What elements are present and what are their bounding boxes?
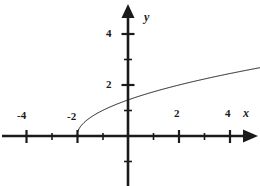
x-tick-label-minus-2: -2 bbox=[67, 111, 76, 122]
coordinate-plane bbox=[0, 0, 260, 186]
y-tick-label-2: 2 bbox=[106, 79, 112, 90]
x-tick-label-4: 4 bbox=[225, 108, 231, 119]
y-tick-label-4: 4 bbox=[106, 28, 112, 39]
x-axis-arrowhead-icon bbox=[243, 130, 258, 143]
y-axis-arrowhead-icon bbox=[122, 4, 135, 18]
x-tick-label-2: 2 bbox=[174, 108, 180, 119]
function-curve bbox=[77, 68, 260, 136]
y-axis-label: y bbox=[144, 11, 149, 23]
x-tick-label-minus-4: -4 bbox=[17, 110, 26, 121]
x-axis-label: x bbox=[243, 107, 249, 119]
graph-figure: -4 -2 2 4 4 2 x y bbox=[0, 0, 260, 186]
